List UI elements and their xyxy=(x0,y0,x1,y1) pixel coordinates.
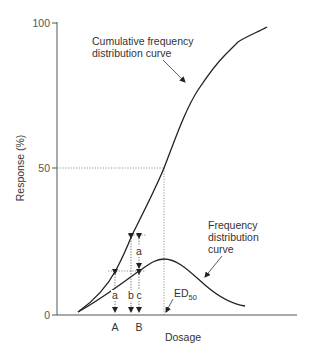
ed50-pointer-arrow xyxy=(166,299,173,312)
frequency-distribution-curve xyxy=(78,259,245,312)
cumulative-curve-label-line2: distribution curve xyxy=(92,47,172,59)
frequency-curve-label-line2: distribution xyxy=(208,231,259,243)
label-b: b xyxy=(128,289,134,301)
ed50-label: ED50 xyxy=(174,287,197,302)
frequency-pointer-arrow xyxy=(205,256,222,277)
cumulative-pointer-arrow xyxy=(163,60,185,82)
tick-label-0: 0 xyxy=(44,309,50,321)
frequency-curve-label-line1: Frequency xyxy=(208,219,258,231)
marker-a: A xyxy=(111,321,118,333)
cumulative-curve-label-line1: Cumulative frequency xyxy=(92,35,194,47)
ed-text: ED xyxy=(174,287,189,299)
tick-label-100: 100 xyxy=(32,17,50,29)
tick-label-50: 50 xyxy=(38,162,50,174)
y-axis-label: Response (%) xyxy=(14,135,26,202)
diagram-canvas: 100 50 0 Response (%) Dosage xyxy=(0,0,313,358)
marker-b: B xyxy=(135,321,142,333)
frequency-curve-label-line3: curve xyxy=(208,243,234,255)
ed50-guides xyxy=(57,168,164,315)
axes xyxy=(52,22,297,315)
label-a-upper: a xyxy=(136,245,142,257)
label-a-lower: a xyxy=(112,289,118,301)
label-c: c xyxy=(136,289,141,301)
dose-response-diagram: 100 50 0 Response (%) Dosage xyxy=(0,0,313,358)
x-axis-label: Dosage xyxy=(165,331,201,343)
ed-subscript: 50 xyxy=(189,293,197,302)
